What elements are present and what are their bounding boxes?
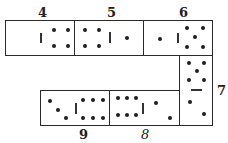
pip [116, 113, 120, 117]
pip [158, 37, 162, 41]
pip [83, 44, 87, 48]
pip [64, 116, 68, 120]
pip [185, 26, 189, 30]
domino-label-4: 4 [38, 6, 47, 19]
pip [91, 116, 95, 120]
domino-label-6: 6 [179, 6, 188, 19]
pip [81, 116, 85, 120]
domino-label-9: 9 [79, 128, 88, 141]
pip [48, 99, 52, 103]
pip [81, 98, 85, 102]
domino-7 [179, 55, 213, 126]
pip [52, 44, 56, 48]
pip [83, 28, 87, 32]
pip [134, 113, 138, 117]
pip [66, 28, 70, 32]
domino-divider [75, 103, 77, 114]
domino-divider [177, 33, 179, 43]
pip [97, 44, 101, 48]
pip [101, 98, 105, 102]
pip [193, 35, 197, 39]
pip [125, 36, 129, 40]
domino-divider [142, 103, 144, 114]
domino-divider [191, 89, 202, 91]
pip [97, 28, 101, 32]
pip [187, 61, 191, 65]
pip [195, 69, 199, 73]
domino-label-5: 5 [107, 6, 116, 19]
domino-9 [40, 90, 110, 126]
pip [202, 112, 206, 116]
domino-divider [40, 33, 42, 43]
pip [125, 96, 129, 100]
domino-6 [143, 20, 213, 56]
pip [91, 98, 95, 102]
pip [116, 96, 120, 100]
pip [202, 78, 206, 82]
domino-divider [109, 32, 111, 43]
pip [201, 45, 205, 49]
domino-label-8: 8 [141, 128, 149, 141]
pip [56, 108, 60, 112]
domino-label-7: 7 [217, 84, 226, 97]
pip [125, 113, 129, 117]
pip [154, 101, 158, 105]
pip [168, 116, 172, 120]
pip [187, 78, 191, 82]
pip [188, 100, 192, 104]
pip [52, 28, 56, 32]
pip [66, 44, 70, 48]
pip [134, 96, 138, 100]
domino-8 [109, 90, 180, 126]
domino-4 [5, 20, 75, 56]
pip [202, 61, 206, 65]
pip [201, 26, 205, 30]
pip [101, 116, 105, 120]
pip [185, 45, 189, 49]
domino-5 [74, 20, 144, 56]
